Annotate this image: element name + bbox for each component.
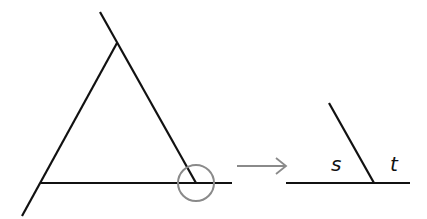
magnified-vertex: s t xyxy=(286,103,410,183)
angle-label-s: s xyxy=(331,152,341,176)
angle-diagram: s t xyxy=(0,0,427,219)
triangle-figure xyxy=(22,12,232,216)
angle-label-t: t xyxy=(390,152,399,176)
right-side-line xyxy=(100,12,196,183)
left-side-line xyxy=(22,43,117,216)
right-arrow-icon xyxy=(237,158,286,174)
